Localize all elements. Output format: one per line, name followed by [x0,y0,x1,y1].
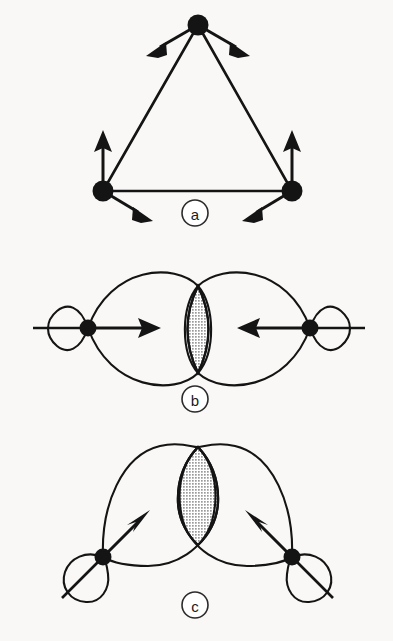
orbital-overlap-figure: a b [0,0,393,641]
panel-a-badge: a [182,200,208,226]
panel-b-right-atom [302,320,319,337]
panel-b-badge: b [182,386,208,412]
figure-container: a b [0,0,393,641]
panel-a-bottom-left-atom [93,181,114,202]
panel-c-left-atom [95,549,112,566]
panel-a-bottom-right-atom [282,181,303,202]
panel-b-label: b [191,392,199,409]
panel-c-badge: c [182,592,208,618]
panel-c-right-atom [284,549,301,566]
panel-a-apex-atom [188,15,209,36]
panel-c-label: c [191,598,199,615]
panel-b-left-atom [80,320,97,337]
panel-a-label: a [191,206,200,223]
